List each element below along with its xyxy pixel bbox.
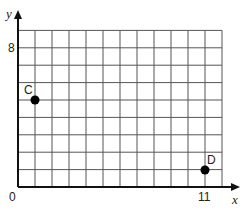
point-c-label: C bbox=[24, 83, 33, 97]
y-axis-label: y bbox=[4, 6, 12, 21]
y-tick-8: 8 bbox=[8, 41, 15, 55]
x-axis-label: x bbox=[231, 192, 238, 207]
y-axis-arrow-icon bbox=[14, 10, 22, 19]
x-tick-11: 11 bbox=[198, 190, 211, 204]
grid-lines bbox=[18, 30, 222, 187]
point-d-label: D bbox=[207, 153, 216, 167]
coordinate-plane: y x 8 0 11 C D bbox=[0, 0, 246, 210]
origin-label: 0 bbox=[9, 190, 16, 204]
x-axis-arrow-icon bbox=[231, 183, 240, 191]
